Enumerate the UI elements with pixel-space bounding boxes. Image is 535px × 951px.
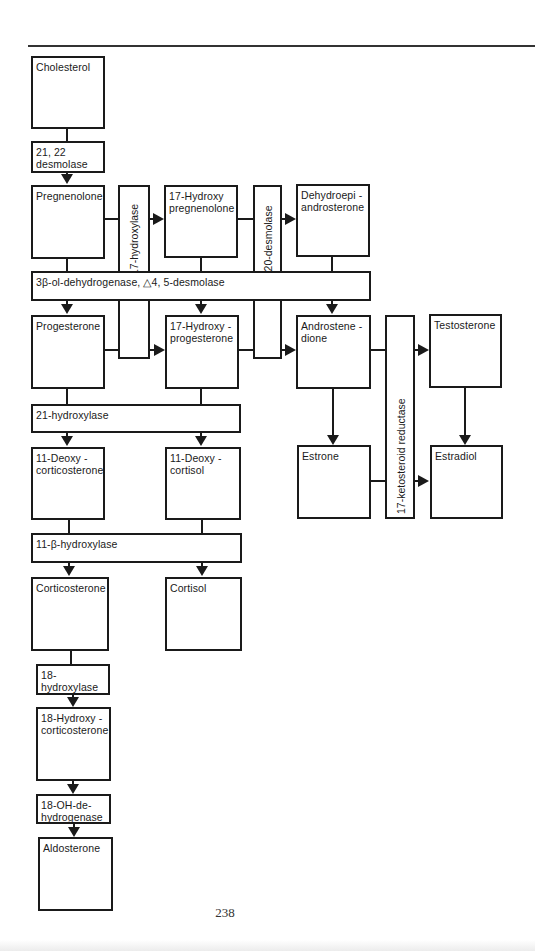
node-label: Cortisol [170,582,206,594]
enzyme-label: 3β-ol-dehydrogenase, △4, 5-desmolase [36,276,225,288]
node-label: 11-Deoxy - cortisol [170,452,222,476]
node-cortisol: Cortisol [165,577,242,651]
node-estrone: Estrone [297,445,371,519]
arrow-right-icon [285,213,296,225]
node-corticosterone: Corticosterone [31,577,109,651]
enzyme-label: 17-ketosteroid reductase [395,398,407,514]
enzyme-label: 18-OH-de- hydrogenase [41,799,103,823]
header-rule [28,45,535,47]
connector [464,387,466,436]
node-label: Dehydroepi - androsterone [301,189,364,213]
enzyme-3b-ol-dehydrogenase: 3β-ol-dehydrogenase, △4, 5-desmolase [31,271,371,301]
node-cholesterol: Cholesterol [31,56,105,129]
connector [66,388,68,404]
node-11-deoxycorticosterone: 11-Deoxy - corticosterone [31,447,105,520]
enzyme-21-hydroxylase: 21-hydroxylase [31,404,241,433]
node-18-hydroxycorticosterone: 18-Hydroxy - corticosterone [36,707,111,781]
node-label: Aldosterone [43,842,100,854]
connector [68,519,70,533]
node-label: Corticosterone [36,582,106,594]
enzyme-18-hydroxylase: 18- hydroxylase [36,664,110,695]
arrow-down-icon [63,566,75,576]
enzyme-label: 18- hydroxylase [41,669,98,693]
enzyme-17-ketosteroid-reductase: 17-ketosteroid reductase [385,315,415,519]
arrow-down-icon [61,304,73,314]
node-17-hydroxyprogesterone: 17-Hydroxy - progesterone [165,315,239,389]
node-estradiol: Estradiol [430,445,503,519]
connector [370,349,385,351]
node-label: 11-Deoxy - corticosterone [36,452,103,476]
arrow-down-icon [327,435,339,445]
connector [238,349,253,351]
node-testosterone: Testosterone [429,314,502,388]
connector [104,218,118,220]
page-number: 238 [205,905,245,921]
node-11-deoxycortisol: 11-Deoxy - cortisol [165,447,241,520]
connector [201,519,203,533]
connector [200,257,202,271]
arrow-right-icon [154,344,165,356]
node-label: Pregnenolone [36,190,103,202]
node-label: Estradiol [435,450,477,462]
arrow-down-icon [195,436,207,446]
node-androstenedione: Androstene - dione [296,315,371,389]
node-17-hydroxy-pregnenolone: 17-Hydroxy pregnenolone [164,185,238,258]
arrow-down-icon [67,784,79,794]
node-aldosterone: Aldosterone [38,837,113,911]
node-pregnenolone: Pregnenolone [31,185,105,259]
arrow-down-icon [67,697,79,707]
enzyme-11-beta-hydroxylase: 11-β-hydroxylase [31,533,242,563]
arrow-down-icon [61,174,73,184]
arrow-right-icon [153,213,164,225]
arrow-down-icon [459,435,471,445]
node-label: 17-Hydroxy pregnenolone [169,190,234,214]
node-label: Estrone [302,450,339,462]
node-label: 18-Hydroxy - corticosterone [41,712,108,736]
enzyme-18-oh-dehydrogenase: 18-OH-de- hydrogenase [36,794,111,824]
connector [66,258,68,271]
node-progesterone: Progesterone [31,315,105,389]
arrow-down-icon [196,566,208,576]
connector [370,480,385,482]
arrow-down-icon [326,304,338,314]
connector [237,218,253,220]
arrow-right-icon [418,475,429,487]
connector [332,388,334,436]
arrow-right-icon [418,344,429,356]
connector [70,650,72,664]
arrow-right-icon [285,344,296,356]
arrow-down-icon [68,827,80,837]
connector [331,256,333,271]
connector [66,128,68,141]
node-label: Testosterone [434,319,495,331]
enzyme-label: 21, 22 desmolase [36,146,88,170]
enzyme-label: 11-β-hydroxylase [36,538,118,550]
enzyme-label: 21-hydroxylase [36,409,109,421]
enzyme-label: 17-hydroxylase [128,204,140,275]
node-label: Cholesterol [36,61,90,73]
arrow-down-icon [195,304,207,314]
enzyme-21-22-desmolase: 21, 22 desmolase [31,141,105,173]
arrow-down-icon [61,436,73,446]
scan-edge [0,940,535,951]
node-label: 17-Hydroxy - progesterone [170,320,233,344]
connector [104,349,118,351]
node-label: Androstene - dione [301,320,362,344]
connector [200,388,202,404]
node-label: Progesterone [36,320,100,332]
node-dehydroepiandrosterone: Dehydroepi - androsterone [296,184,370,257]
